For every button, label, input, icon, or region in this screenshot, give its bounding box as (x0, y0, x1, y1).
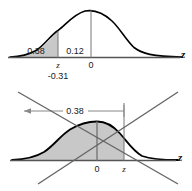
top-chart-tick-zero: 0 (88, 60, 93, 70)
bottom-chart-tick-zero: 0 (94, 164, 99, 174)
top-chart-unshaded-area-label: 0.12 (66, 46, 84, 56)
top-chart-tick-z: z (55, 60, 60, 70)
figure-container: 0.38 0.12 z 0 -0.31 z (0, 0, 192, 191)
bottom-chart-dimension-label: 0.38 (66, 106, 84, 116)
normal-distribution-figure: 0.38 0.12 z 0 -0.31 z (0, 0, 192, 191)
bottom-chart-shaded-area (12, 122, 124, 160)
bottom-chart-tick-z: z (121, 164, 126, 174)
bottom-chart-axis-label: z (177, 151, 183, 163)
top-chart-shaded-area-label: 0.38 (27, 46, 45, 56)
bottom-chart-dimension-arrow-icon (24, 108, 31, 114)
top-chart: 0.38 0.12 z 0 -0.31 z (8, 10, 186, 82)
top-chart-z-value: -0.31 (48, 71, 69, 81)
top-chart-axis-label: z (180, 48, 186, 60)
bottom-chart: 0.38 0 z z (10, 92, 183, 184)
